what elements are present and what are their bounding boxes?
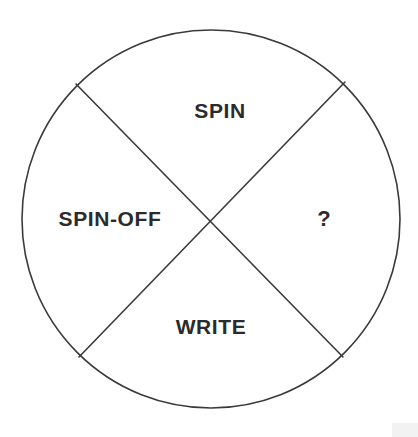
segment-label-top: SPIN — [194, 99, 245, 123]
segment-label-left: SPIN-OFF — [59, 207, 162, 231]
circle-quadrant-diagram: SPIN SPIN-OFF ? WRITE — [0, 0, 418, 437]
segment-label-bottom: WRITE — [176, 315, 247, 339]
segment-label-right: ? — [317, 206, 330, 232]
